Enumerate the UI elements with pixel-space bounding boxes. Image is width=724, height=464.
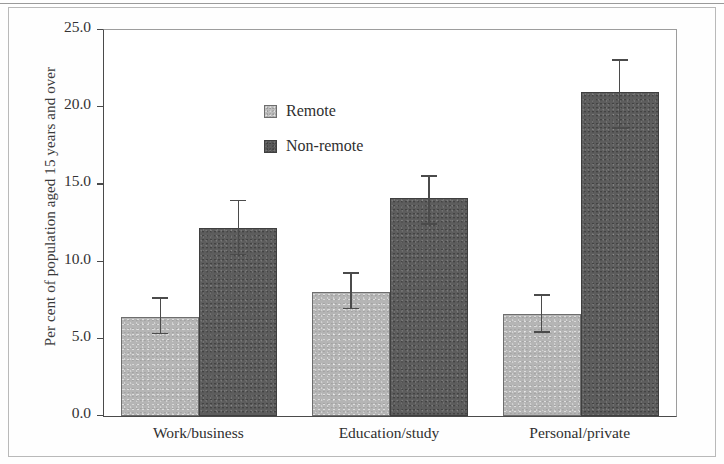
error-bar-stem xyxy=(619,59,620,128)
y-tick-label: 0.0 xyxy=(72,404,91,422)
legend-swatch-icon xyxy=(264,105,277,118)
y-tick-label: 10.0 xyxy=(64,250,91,268)
error-bar-cap-top xyxy=(230,200,246,202)
y-tick-label: 25.0 xyxy=(64,18,91,36)
x-tick-label: Education/study xyxy=(339,424,440,442)
error-bar-cap-top xyxy=(152,297,168,299)
error-bar-cap-bottom xyxy=(534,331,550,333)
error-bar-cap-bottom xyxy=(152,333,168,335)
error-bar-cap-bottom xyxy=(612,127,628,129)
error-bar-stem xyxy=(350,272,351,309)
error-bar-cap-top xyxy=(534,294,550,296)
error-bar-cap-bottom xyxy=(421,223,437,225)
y-tick-label: 20.0 xyxy=(64,95,91,113)
error-bar-stem xyxy=(541,294,542,333)
error-bar-stem xyxy=(238,200,239,256)
y-tick-label: 5.0 xyxy=(72,327,91,345)
bar-remote-education-study[interactable] xyxy=(312,292,390,416)
x-tick-label: Work/business xyxy=(153,424,244,442)
bar-group xyxy=(503,30,659,416)
page-top-rule xyxy=(0,3,724,4)
bar-non-remote-education-study[interactable] xyxy=(390,198,468,416)
legend-label: Non-remote xyxy=(286,137,363,155)
error-bar-cap-bottom xyxy=(343,308,359,310)
bar-non-remote-personal-private[interactable] xyxy=(581,92,659,416)
error-bar-cap-top xyxy=(421,175,437,177)
legend-swatch-icon xyxy=(264,140,277,153)
x-tick-label: Personal/private xyxy=(529,424,630,442)
bar-group xyxy=(121,30,277,416)
error-bar-cap-top xyxy=(612,59,628,61)
bar-group xyxy=(312,30,468,416)
legend-item-nonremote[interactable]: Non-remote xyxy=(264,137,363,155)
chart-legend: RemoteNon-remote xyxy=(264,102,363,172)
chart-figure: Per cent of population aged 15 years and… xyxy=(0,0,724,464)
y-tick-label: 15.0 xyxy=(64,172,91,190)
error-bar-cap-top xyxy=(343,272,359,274)
bar-non-remote-work-business[interactable] xyxy=(199,228,277,416)
legend-item-remote[interactable]: Remote xyxy=(264,102,363,120)
y-axis-title: Per cent of population aged 15 years and… xyxy=(42,7,59,407)
error-bar-stem xyxy=(428,175,429,224)
error-bar-stem xyxy=(160,297,161,334)
legend-label: Remote xyxy=(286,102,336,120)
error-bar-cap-bottom xyxy=(230,254,246,256)
plot-area: RemoteNon-remote xyxy=(103,29,677,417)
